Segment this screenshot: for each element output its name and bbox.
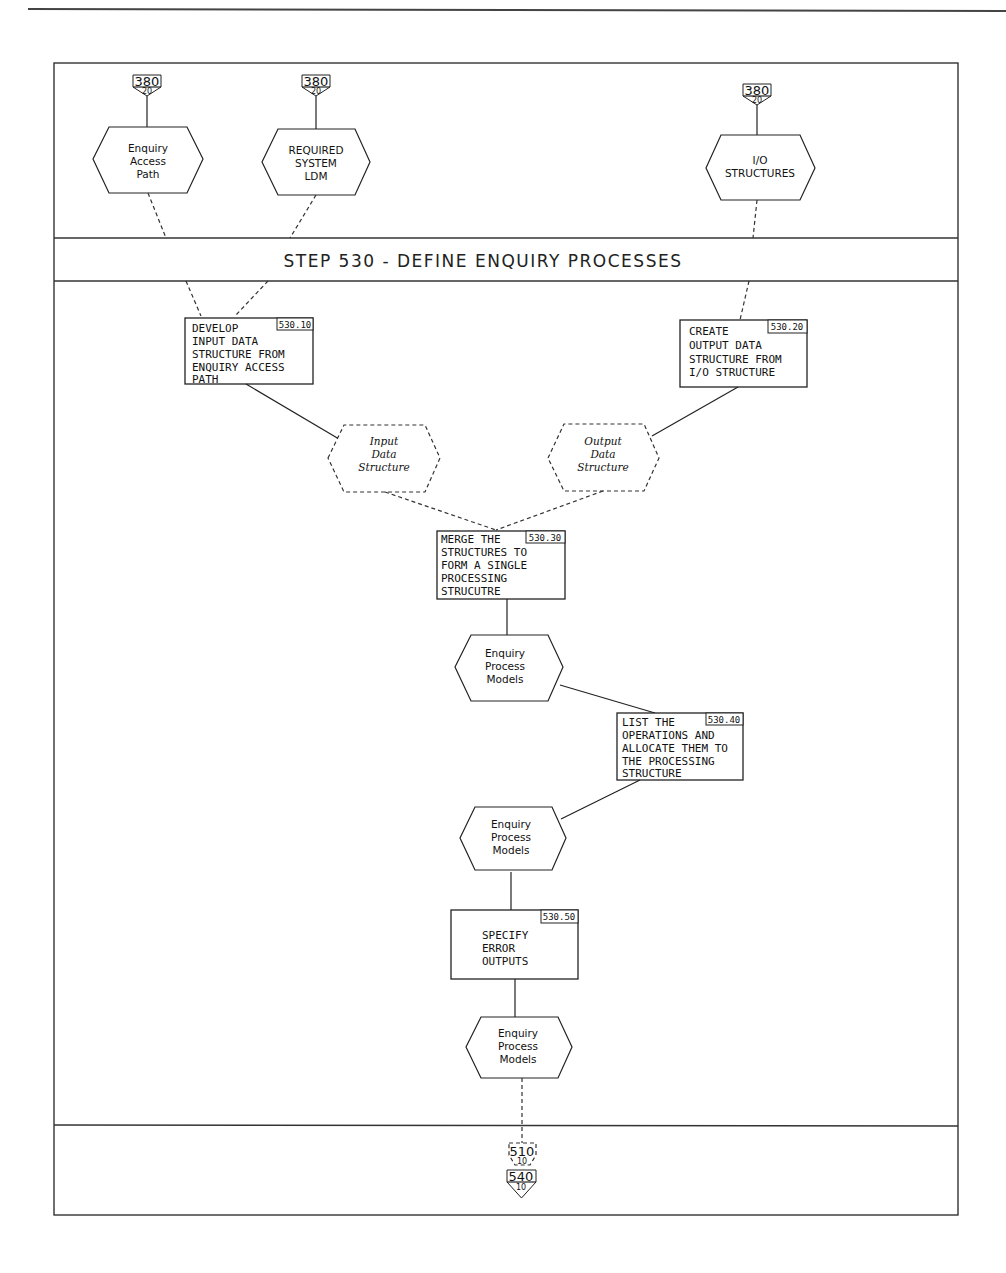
input-product-enquiry-access-path[interactable]: 380 20 Enquiry Access Path xyxy=(93,74,203,193)
step-title: STEP 530 - DEFINE ENQUIRY PROCESSES xyxy=(284,251,683,271)
input-product-required-system-ldm[interactable]: 380 20 REQUIRED SYSTEM LDM xyxy=(262,74,370,195)
svg-text:OUTPUT DATA: OUTPUT DATA xyxy=(689,339,762,352)
svg-text:530.40: 530.40 xyxy=(708,715,741,725)
svg-text:STRUCTURES TO: STRUCTURES TO xyxy=(441,546,527,559)
activity-530-10[interactable]: 530.10 DEVELOP INPUT DATA STRUCTURE FROM… xyxy=(185,318,313,386)
svg-text:10: 10 xyxy=(516,1183,526,1192)
svg-text:20: 20 xyxy=(311,87,321,96)
svg-text:540: 540 xyxy=(509,1169,534,1184)
svg-text:STRUCUTRE: STRUCUTRE xyxy=(441,585,501,598)
svg-text:Models: Models xyxy=(493,844,530,856)
output-ref-540-10[interactable]: 540 10 xyxy=(507,1169,536,1198)
product-enquiry-process-models-1[interactable]: Enquiry Process Models xyxy=(455,635,563,701)
input-product-io-structures[interactable]: 380 20 I/O STRUCTURES xyxy=(706,83,815,200)
svg-text:FORM A SINGLE: FORM A SINGLE xyxy=(441,559,527,572)
svg-text:Process: Process xyxy=(491,831,531,843)
activity-530-50[interactable]: 530.50 SPECIFY ERROR OUTPUTS xyxy=(451,910,578,979)
svg-text:10: 10 xyxy=(517,1157,527,1166)
svg-text:Enquiry: Enquiry xyxy=(128,142,168,154)
ref-tag-380-20: 380 20 xyxy=(133,74,161,96)
ref-tag-380-20: 380 20 xyxy=(743,83,771,105)
bottom-band-line xyxy=(54,1125,958,1126)
activity-530-30[interactable]: 530.30 MERGE THE STRUCTURES TO FORM A SI… xyxy=(437,531,565,599)
svg-text:MERGE THE: MERGE THE xyxy=(441,533,501,546)
svg-text:Input: Input xyxy=(369,435,399,447)
svg-text:Access: Access xyxy=(130,155,166,167)
svg-text:Enquiry: Enquiry xyxy=(491,818,531,830)
page-header-rule xyxy=(28,9,1006,11)
svg-text:PROCESSING: PROCESSING xyxy=(441,572,507,585)
svg-text:Process: Process xyxy=(498,1040,538,1052)
svg-text:PATH: PATH xyxy=(192,373,219,386)
diagram-canvas: STEP 530 - DEFINE ENQUIRY PROCESSES 380 … xyxy=(0,0,1006,1273)
svg-text:CREATE: CREATE xyxy=(689,325,729,338)
svg-text:Data: Data xyxy=(589,448,615,460)
svg-text:530.10: 530.10 xyxy=(279,320,312,330)
svg-text:Models: Models xyxy=(500,1053,537,1065)
svg-text:Enquiry: Enquiry xyxy=(485,647,525,659)
svg-text:STRUCTURE FROM: STRUCTURE FROM xyxy=(689,353,782,366)
activity-530-40[interactable]: 530.40 LIST THE OPERATIONS AND ALLOCATE … xyxy=(617,713,743,780)
ref-tag-380-20: 380 20 xyxy=(302,74,330,96)
connector-530-20-to-output-data-structure xyxy=(652,387,738,436)
svg-text:Structure: Structure xyxy=(358,461,409,473)
connector-530-10-to-input-data-structure xyxy=(246,384,339,439)
activity-530-20[interactable]: 530.20 CREATE OUTPUT DATA STRUCTURE FROM… xyxy=(680,320,807,387)
connector-530-40-to-epm2 xyxy=(561,780,640,819)
svg-text:20: 20 xyxy=(142,87,152,96)
svg-text:530.50: 530.50 xyxy=(543,912,576,922)
connector-epm1-to-530-40 xyxy=(560,685,655,713)
svg-text:Models: Models xyxy=(487,673,524,685)
svg-text:OPERATIONS AND: OPERATIONS AND xyxy=(622,729,715,742)
svg-text:20: 20 xyxy=(752,96,762,105)
svg-text:I/O STRUCTURE: I/O STRUCTURE xyxy=(689,366,775,379)
svg-text:LIST THE: LIST THE xyxy=(622,716,675,729)
intermediate-input-data-structure[interactable]: Input Data Structure xyxy=(328,425,440,492)
svg-text:530.30: 530.30 xyxy=(529,533,562,543)
svg-text:REQUIRED: REQUIRED xyxy=(289,144,344,156)
svg-text:Structure: Structure xyxy=(577,461,628,473)
svg-text:Enquiry: Enquiry xyxy=(498,1027,538,1039)
svg-text:I/O: I/O xyxy=(753,154,768,166)
svg-text:Data: Data xyxy=(370,448,396,460)
svg-text:DEVELOP: DEVELOP xyxy=(192,322,239,335)
intermediate-output-data-structure[interactable]: Output Data Structure xyxy=(548,424,659,491)
svg-text:STRUCTURE FROM: STRUCTURE FROM xyxy=(192,348,285,361)
product-enquiry-process-models-3[interactable]: Enquiry Process Models xyxy=(466,1017,572,1078)
svg-text:STRUCTURE: STRUCTURE xyxy=(622,767,682,780)
connector-ods-to-530-30 xyxy=(496,491,603,530)
svg-text:INPUT DATA: INPUT DATA xyxy=(192,335,259,348)
svg-text:STRUCTURES: STRUCTURES xyxy=(725,167,795,179)
svg-text:ERROR: ERROR xyxy=(482,942,515,955)
connector-ids-to-530-30 xyxy=(385,492,496,530)
output-ref-510-10[interactable]: 510 10 xyxy=(509,1143,536,1166)
svg-text:Output: Output xyxy=(584,435,622,447)
svg-text:SYSTEM: SYSTEM xyxy=(295,157,337,169)
svg-text:Process: Process xyxy=(485,660,525,672)
svg-text:ALLOCATE THEM TO: ALLOCATE THEM TO xyxy=(622,742,728,755)
svg-text:LDM: LDM xyxy=(305,170,328,182)
svg-text:SPECIFY: SPECIFY xyxy=(482,929,529,942)
product-enquiry-process-models-2[interactable]: Enquiry Process Models xyxy=(460,807,566,870)
svg-text:OUTPUTS: OUTPUTS xyxy=(482,955,528,968)
svg-text:530.20: 530.20 xyxy=(771,322,804,332)
svg-text:Path: Path xyxy=(136,168,159,180)
